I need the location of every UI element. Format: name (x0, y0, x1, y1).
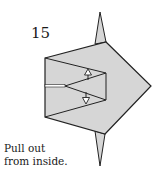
instruction-caption: Pull out from inside. (4, 142, 68, 168)
caption-line-2: from inside. (4, 155, 68, 168)
bottom-point-flap (95, 131, 105, 166)
slit (45, 85, 65, 88)
model-body (45, 42, 151, 134)
caption-line-1: Pull out (4, 142, 68, 155)
top-point-flap (95, 12, 106, 44)
step-number: 15 (31, 24, 50, 42)
